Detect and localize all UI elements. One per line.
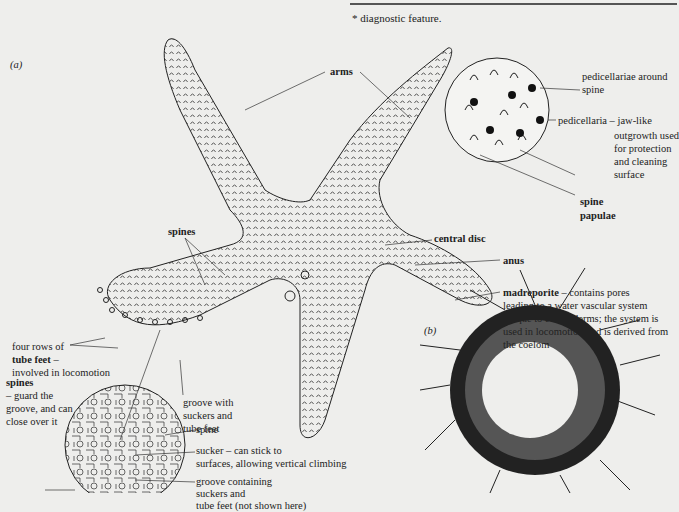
label-pedicellaria: pedicellaria – jaw-like [558, 114, 652, 127]
label-spines-guard: spines – guard the groove, and can close… [6, 376, 73, 428]
label-groove-containing: groove containing suckers and tube feet … [196, 476, 306, 512]
label-papulae: papulae [580, 209, 616, 222]
label-pedicellaria-desc: outgrowth used for protection and cleani… [614, 129, 679, 181]
label-tube-feet: four rows of tube feet – involved in loc… [12, 340, 110, 379]
label-spine-inset: spine [580, 195, 603, 208]
groove-inset [65, 385, 195, 493]
label-pedicellariae-around: pedicellariae around spine [582, 70, 667, 96]
panel-a-label: (a) [10, 58, 22, 71]
label-spines: spines [168, 225, 195, 238]
label-spine-groove: spine [196, 423, 218, 436]
panel-b-label: (b) [424, 324, 436, 337]
madreporite-title: madreporite [503, 287, 559, 298]
label-anus: anus [503, 254, 524, 267]
label-arms: arms [330, 65, 353, 78]
label-madreporite: madreporite – contains pores leading to … [503, 286, 668, 351]
label-sucker: sucker – can stick to surfaces, allowing… [196, 444, 346, 470]
label-central-disc: central disc [434, 232, 486, 245]
